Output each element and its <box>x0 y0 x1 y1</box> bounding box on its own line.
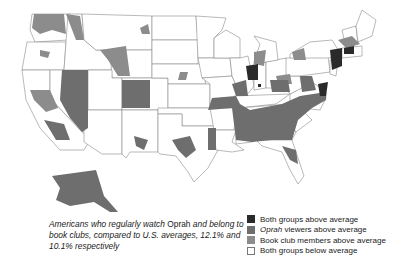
legend-swatch-book-club-above <box>247 236 255 244</box>
map-caption: Americans who regularly watch Oprah and … <box>49 219 244 252</box>
legend-label: Both groups above average <box>260 215 358 224</box>
legend-swatch-both-below <box>247 247 255 255</box>
caption-text: Americans who regularly watch <box>49 219 167 229</box>
legend-label: Book club members above average <box>260 236 386 245</box>
legend-item-book-club-above: Book club members above average <box>247 235 386 245</box>
legend-label: Oprah viewers above average <box>260 225 367 234</box>
legend-swatch-both-above <box>247 215 255 223</box>
legend-item-oprah-above: Oprah viewers above average <box>247 225 386 235</box>
legend-item-both-below: Both groups below average <box>247 246 386 256</box>
legend-item-both-above: Both groups above average <box>247 214 386 224</box>
caption-oprah: Oprah <box>167 219 190 229</box>
legend-swatch-oprah-above <box>247 226 255 234</box>
us-choropleth-map <box>0 0 405 215</box>
map-legend: Both groups above average Oprah viewers … <box>247 214 386 256</box>
legend-label: Both groups below average <box>260 246 357 255</box>
